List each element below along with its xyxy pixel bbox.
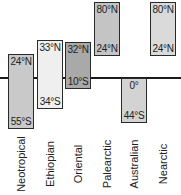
region-label-australian: Australian (121, 135, 146, 193)
range-bar-nearctic: 80°N 24°N (150, 2, 176, 56)
north-limit-label: 80°N (151, 4, 175, 15)
north-limit-label: 0° (122, 80, 146, 91)
region-name-text: Oriental (72, 145, 84, 184)
region-name-text: Nearctic (157, 144, 169, 184)
region-name-text: Palearctic (101, 140, 113, 188)
region-label-oriental: Oriental (65, 135, 90, 193)
range-bar-australian: 0° 44°S (121, 78, 147, 123)
range-bar-palearctic: 80°N 24°N (94, 2, 120, 56)
region-label-nearctic: Nearctic (150, 135, 175, 193)
south-limit-label: 44°S (122, 110, 146, 121)
south-limit-label: 24°N (95, 43, 119, 54)
north-limit-label: 33°N (38, 42, 62, 53)
region-name-text: Australian (128, 140, 140, 189)
south-limit-label: 10°S (66, 76, 90, 87)
region-name-text: Ethiopian (44, 141, 56, 187)
range-bar-ethiopian: 33°N 34°S (37, 40, 63, 109)
region-name-text: Neotropical (15, 136, 27, 192)
region-label-ethiopian: Ethiopian (37, 135, 62, 193)
range-bar-neotropical: 24°N 55°S (8, 54, 34, 129)
region-label-palearctic: Palearctic (94, 135, 119, 193)
range-bar-oriental: 32°N 10°S (65, 42, 91, 89)
region-label-neotropical: Neotropical (8, 135, 33, 193)
south-limit-label: 55°S (9, 116, 33, 127)
south-limit-label: 34°S (38, 96, 62, 107)
north-limit-label: 24°N (9, 56, 33, 67)
north-limit-label: 32°N (66, 44, 90, 55)
north-limit-label: 80°N (95, 4, 119, 15)
south-limit-label: 24°N (151, 43, 175, 54)
